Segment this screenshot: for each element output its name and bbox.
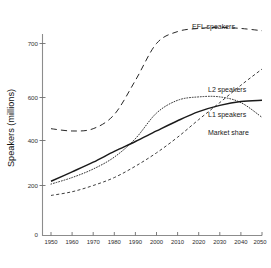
y-tick-600: 600 — [28, 94, 39, 101]
chart-figure: Speakers (millions) 700 600 400 200 0 19… — [0, 0, 271, 268]
x-axis-ticks: 1950 1960 1970 1980 1990 2000 2010 2020 … — [44, 232, 267, 245]
x-tick-2030: 2030 — [213, 239, 227, 245]
x-tick-1990: 1990 — [129, 239, 143, 245]
y-tick-200: 200 — [28, 182, 39, 189]
x-tick-2040: 2040 — [234, 239, 248, 245]
x-tick-1980: 1980 — [108, 239, 122, 245]
x-tick-2050: 2050 — [253, 239, 267, 245]
x-tick-1950: 1950 — [44, 239, 58, 245]
x-tick-2020: 2020 — [192, 239, 206, 245]
series-label-l1-speakers: L1 speakers — [208, 111, 247, 119]
x-tick-2010: 2010 — [171, 239, 185, 245]
series-label-market-share: Market share — [208, 129, 249, 136]
x-tick-1960: 1960 — [66, 239, 80, 245]
series-label-l2-speakers: L2 speakers — [208, 86, 247, 94]
x-tick-2000: 2000 — [150, 239, 164, 245]
y-tick-400: 400 — [28, 137, 39, 144]
chart-canvas: Speakers (millions) 700 600 400 200 0 19… — [0, 0, 271, 268]
y-axis-title: Speakers (millions) — [6, 89, 16, 167]
series-labels: EFL speakers L2 speakers L1 speakers Mar… — [192, 23, 249, 136]
x-tick-1970: 1970 — [87, 239, 101, 245]
series-label-efl-speakers: EFL speakers — [192, 23, 235, 31]
series-line-market-share — [51, 96, 262, 184]
y-tick-0: 0 — [35, 231, 39, 238]
y-tick-700: 700 — [28, 40, 39, 47]
